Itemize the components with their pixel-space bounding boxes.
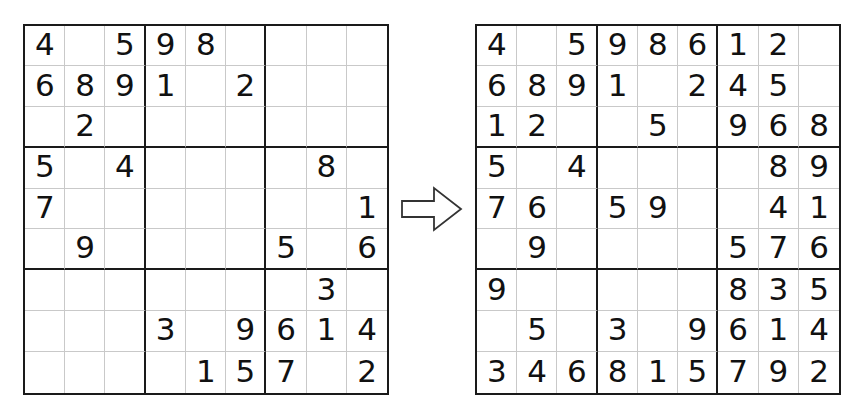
sudoku-cell[interactable] [347,270,387,311]
sudoku-cell[interactable] [638,148,678,189]
sudoku-cell[interactable] [678,107,718,148]
sudoku-cell[interactable] [598,107,638,148]
sudoku-cell[interactable]: 7 [759,229,799,270]
sudoku-cell[interactable]: 7 [25,189,65,230]
sudoku-cell[interactable]: 9 [146,26,186,67]
sudoku-cell[interactable] [557,189,597,230]
sudoku-cell[interactable]: 4 [718,66,758,107]
sudoku-cell[interactable]: 9 [718,107,758,148]
sudoku-cell[interactable]: 5 [557,26,597,67]
sudoku-cell[interactable]: 1 [759,311,799,352]
sudoku-cell[interactable]: 4 [759,189,799,230]
sudoku-cell[interactable] [347,107,387,148]
sudoku-cell[interactable] [146,107,186,148]
sudoku-cell[interactable] [477,229,517,270]
sudoku-cell[interactable]: 9 [678,311,718,352]
sudoku-cell[interactable] [307,189,347,230]
sudoku-cell[interactable] [307,66,347,107]
sudoku-cell[interactable] [25,270,65,311]
sudoku-cell[interactable]: 6 [347,229,387,270]
sudoku-cell[interactable] [307,352,347,393]
sudoku-cell[interactable] [146,189,186,230]
sudoku-cell[interactable]: 8 [307,148,347,189]
sudoku-cell[interactable]: 3 [759,270,799,311]
sudoku-cell[interactable]: 5 [105,26,145,67]
sudoku-cell[interactable]: 8 [186,26,226,67]
sudoku-cell[interactable] [307,26,347,67]
sudoku-cell[interactable] [146,352,186,393]
sudoku-cell[interactable]: 5 [678,352,718,393]
sudoku-cell[interactable]: 9 [226,311,266,352]
sudoku-cell[interactable] [186,229,226,270]
sudoku-cell[interactable]: 5 [598,189,638,230]
sudoku-cell[interactable]: 5 [517,311,557,352]
sudoku-cell[interactable]: 3 [598,311,638,352]
sudoku-cell[interactable]: 5 [718,229,758,270]
sudoku-cell[interactable] [226,26,266,67]
sudoku-cell[interactable] [557,229,597,270]
sudoku-cell[interactable] [186,311,226,352]
sudoku-cell[interactable] [105,352,145,393]
sudoku-cell[interactable] [65,148,105,189]
sudoku-cell[interactable] [347,66,387,107]
sudoku-cell[interactable] [65,270,105,311]
sudoku-cell[interactable]: 5 [638,107,678,148]
sudoku-cell[interactable]: 6 [718,311,758,352]
sudoku-cell[interactable] [598,270,638,311]
sudoku-cell[interactable]: 6 [25,66,65,107]
sudoku-cell[interactable]: 8 [65,66,105,107]
sudoku-cell[interactable] [25,311,65,352]
sudoku-cell[interactable]: 1 [718,26,758,67]
sudoku-cell[interactable]: 4 [477,26,517,67]
sudoku-cell[interactable] [678,229,718,270]
sudoku-cell[interactable] [105,270,145,311]
sudoku-cell[interactable]: 9 [105,66,145,107]
sudoku-cell[interactable]: 6 [678,26,718,67]
sudoku-cell[interactable] [146,270,186,311]
sudoku-cell[interactable]: 6 [799,229,839,270]
sudoku-cell[interactable]: 6 [477,66,517,107]
sudoku-cell[interactable]: 3 [307,270,347,311]
sudoku-cell[interactable] [638,229,678,270]
sudoku-cell[interactable] [598,229,638,270]
sudoku-cell[interactable] [266,148,306,189]
sudoku-cell[interactable] [186,189,226,230]
sudoku-cell[interactable] [146,148,186,189]
sudoku-cell[interactable]: 4 [105,148,145,189]
sudoku-cell[interactable]: 7 [266,352,306,393]
sudoku-cell[interactable]: 6 [557,352,597,393]
sudoku-cell[interactable] [517,148,557,189]
sudoku-cell[interactable] [638,270,678,311]
sudoku-cell[interactable] [557,270,597,311]
sudoku-cell[interactable]: 2 [347,352,387,393]
sudoku-cell[interactable]: 8 [759,148,799,189]
sudoku-cell[interactable]: 4 [799,311,839,352]
sudoku-cell[interactable] [477,311,517,352]
sudoku-cell[interactable] [307,107,347,148]
sudoku-cell[interactable]: 2 [678,66,718,107]
sudoku-cell[interactable] [307,229,347,270]
sudoku-cell[interactable] [186,270,226,311]
sudoku-cell[interactable]: 6 [266,311,306,352]
sudoku-cell[interactable] [65,352,105,393]
sudoku-cell[interactable]: 3 [477,352,517,393]
sudoku-cell[interactable] [266,26,306,67]
sudoku-cell[interactable]: 1 [598,66,638,107]
sudoku-cell[interactable] [799,66,839,107]
sudoku-cell[interactable]: 9 [477,270,517,311]
sudoku-cell[interactable]: 5 [266,229,306,270]
sudoku-cell[interactable]: 6 [759,107,799,148]
sudoku-cell[interactable] [557,311,597,352]
sudoku-cell[interactable]: 1 [477,107,517,148]
sudoku-cell[interactable]: 9 [598,26,638,67]
sudoku-cell[interactable] [266,189,306,230]
sudoku-cell[interactable]: 8 [638,26,678,67]
sudoku-cell[interactable] [266,270,306,311]
sudoku-cell[interactable] [598,148,638,189]
sudoku-cell[interactable]: 5 [477,148,517,189]
sudoku-cell[interactable]: 4 [557,148,597,189]
sudoku-cell[interactable]: 5 [25,148,65,189]
sudoku-cell[interactable] [105,311,145,352]
sudoku-cell[interactable]: 2 [226,66,266,107]
sudoku-cell[interactable] [186,66,226,107]
